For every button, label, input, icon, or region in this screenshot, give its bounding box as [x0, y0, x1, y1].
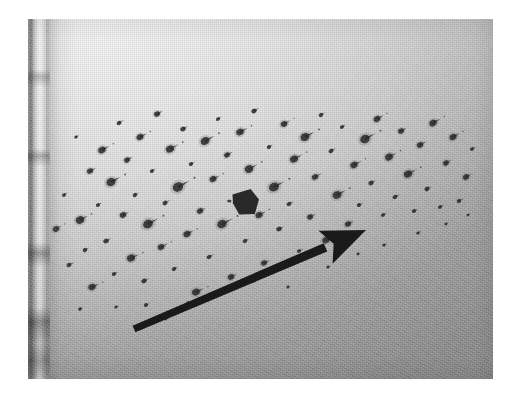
- figure-root: [0, 0, 516, 396]
- print-vignette: [28, 19, 493, 379]
- spatter-photograph: [28, 19, 493, 379]
